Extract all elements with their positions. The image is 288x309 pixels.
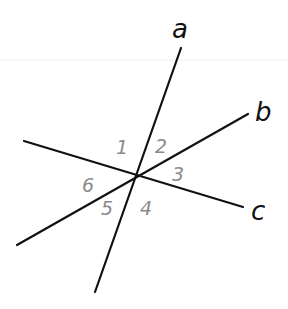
line-label-c: c bbox=[251, 196, 265, 226]
line-b bbox=[17, 114, 248, 245]
line-a bbox=[95, 48, 181, 292]
angle-label-4: 4 bbox=[140, 197, 152, 219]
lines-group bbox=[17, 48, 248, 292]
line-label-a: a bbox=[172, 14, 188, 44]
line-c bbox=[24, 141, 243, 207]
line-labels-group: a b c bbox=[172, 14, 272, 226]
line-label-b: b bbox=[255, 97, 272, 127]
angle-label-2: 2 bbox=[155, 135, 167, 157]
angle-labels-group: 1 2 3 4 5 6 bbox=[82, 135, 184, 219]
angle-label-3: 3 bbox=[172, 163, 184, 185]
angle-label-1: 1 bbox=[116, 136, 128, 158]
angle-label-5: 5 bbox=[101, 197, 113, 219]
angle-label-6: 6 bbox=[82, 174, 94, 196]
intersecting-lines-diagram: a b c 1 2 3 4 5 6 bbox=[0, 0, 288, 309]
